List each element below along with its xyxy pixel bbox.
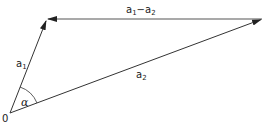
label-a1-minus-a2: a1−a2 (126, 4, 156, 17)
origin-label: 0 (2, 113, 8, 124)
angle-alpha-label: α (21, 96, 29, 109)
vector-diagram: 0 α a1 a2 a1−a2 (0, 0, 269, 125)
label-a1: a1 (16, 58, 27, 71)
vector-a2 (10, 20, 261, 114)
label-a2: a2 (136, 69, 147, 82)
